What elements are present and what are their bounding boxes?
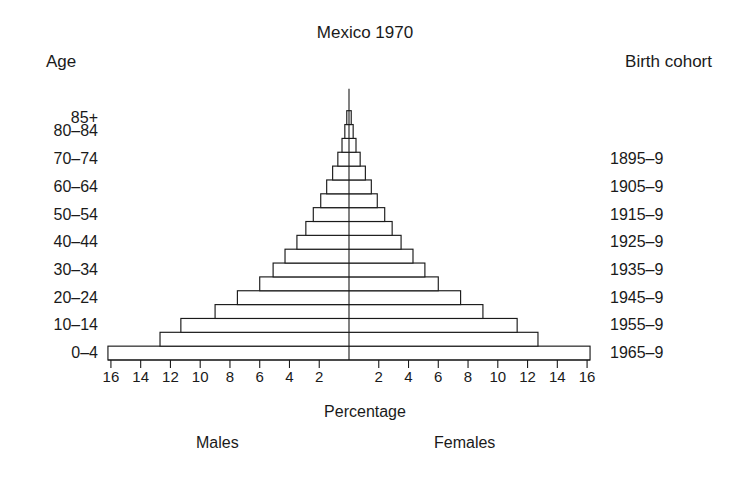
x-axis-tick-label: 12 <box>162 369 179 384</box>
x-axis-tick-label: 12 <box>519 369 536 384</box>
x-axis-tick-label: 2 <box>315 369 323 384</box>
x-axis-tick-label: 10 <box>192 369 209 384</box>
pyramid-axis <box>108 89 590 368</box>
x-axis-tick-label: 4 <box>285 369 293 384</box>
population-pyramid-figure: Mexico 1970 Age Birth cohort 0–410–1420–… <box>0 0 730 477</box>
x-axis-tick-label: 16 <box>103 369 120 384</box>
x-axis-tick-label: 8 <box>464 369 472 384</box>
x-axis-tick-label: 6 <box>434 369 442 384</box>
x-axis-tick-label: 14 <box>132 369 149 384</box>
x-axis-tick-label: 4 <box>404 369 412 384</box>
x-axis-tick-label: 8 <box>226 369 234 384</box>
x-axis-tick-label: 14 <box>549 369 566 384</box>
x-axis-title: Percentage <box>0 404 730 420</box>
females-group-label: Females <box>434 435 495 451</box>
x-axis-tick-label: 6 <box>256 369 264 384</box>
x-axis-tick-label: 2 <box>375 369 383 384</box>
x-axis-tick-label: 10 <box>489 369 506 384</box>
x-axis-tick-label: 16 <box>579 369 596 384</box>
males-group-label: Males <box>196 435 239 451</box>
